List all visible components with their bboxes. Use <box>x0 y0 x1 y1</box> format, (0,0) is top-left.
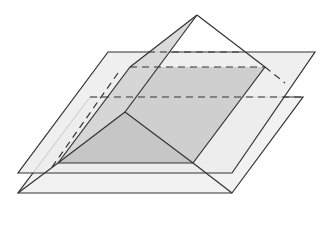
pyramid-planes-diagram <box>0 0 335 230</box>
